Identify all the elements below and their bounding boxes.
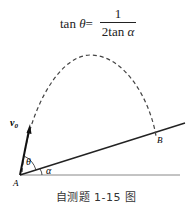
figure-caption: 自测题 1-15 图 [0, 188, 192, 204]
incline-line [20, 123, 185, 175]
alpha-label: α [46, 165, 52, 176]
v0-label: v0 [10, 117, 18, 130]
alpha-arc [40, 169, 42, 175]
trajectory-curve [22, 55, 156, 172]
point-b-label: B [157, 135, 163, 145]
projectile-diagram: v0 θ α A B [0, 0, 192, 210]
velocity-vector [20, 130, 29, 175]
arrow-head-icon [27, 124, 32, 134]
point-a-label: A [12, 178, 19, 188]
theta-label: θ [26, 156, 31, 167]
